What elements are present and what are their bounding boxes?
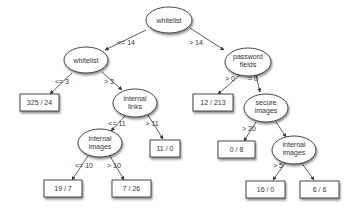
edge-label-whitelist-left-right: > 3 [104, 78, 114, 85]
node-label-line-1: secure [255, 99, 276, 106]
leaf-0-8: 0 / 8 [218, 141, 255, 158]
node-label-line-1: internal [124, 95, 147, 102]
leaf-label: 12 / 213 [200, 99, 225, 106]
node-label-line-1: internal [283, 141, 306, 148]
leaf-label: 7 / 26 [123, 185, 141, 192]
node-secure-images: secure images [244, 94, 288, 122]
edge-password-fields-left: > 0 [218, 75, 240, 94]
leaf-7-26: 7 / 26 [112, 180, 151, 197]
edge-whitelist-left-right: > 3 [102, 72, 122, 90]
edge-secure-images-right [276, 122, 286, 137]
edge-internal-images-right-right [301, 162, 314, 180]
node-label: whitelist [156, 17, 182, 24]
edge-label-internal-links-right: > 11 [145, 120, 158, 127]
edge-label-secure-images-left: > 20 [242, 125, 256, 132]
leaf-label: 0 / 8 [230, 146, 244, 153]
edge-internal-links-right: > 11 [145, 115, 163, 139]
leaf-label: 325 / 24 [27, 99, 52, 106]
node-label-line-2: fields [240, 61, 257, 68]
edge-whitelist-left-left: <= 3 [50, 73, 72, 94]
leaf-label: 19 / 7 [54, 185, 72, 192]
node-whitelist-left: whitelist [64, 47, 108, 73]
edge-label-internal-links-left: <= 11 [108, 120, 125, 127]
edge-label-root-right: > 14 [189, 39, 203, 46]
node-password-fields: password fields [225, 48, 271, 76]
edge-label-root-left: <= 14 [117, 39, 135, 46]
node-label: whitelist [73, 57, 99, 64]
leaf-11-0: 11 / 0 [150, 140, 180, 157]
leaf-12-213: 12 / 213 [193, 94, 233, 111]
node-label-line-1: password [233, 53, 263, 61]
edge-label-internal-images-left-right: > 10 [107, 162, 121, 169]
edge-label-internal-images-left-left: <= 10 [75, 162, 93, 169]
edge-root-right: > 14 [189, 28, 224, 50]
leaf-6-6: 6 / 6 [300, 181, 339, 198]
edge-internal-images-right-left: > 5 [273, 162, 286, 180]
edge-internal-links-left: <= 11 [108, 116, 125, 131]
decision-tree-diagram: <= 14 > 14 <= 3 > 3 <= 11 > 11 <= 10 > 1… [0, 0, 359, 216]
edge-label-internal-images-right-left: > 5 [273, 162, 283, 169]
node-root-whitelist: whitelist [146, 7, 192, 33]
node-label-line-2: images [283, 149, 306, 157]
node-internal-links: internal links [113, 89, 157, 117]
node-label-line-2: links [128, 103, 143, 110]
node-label-line-1: internal [89, 135, 112, 142]
leaf-label: 6 / 6 [313, 186, 327, 193]
node-label-line-2: images [255, 107, 278, 115]
leaf-19-7: 19 / 7 [44, 180, 82, 197]
edge-label-password-fields-left: > 0 [225, 75, 235, 82]
edge-secure-images-left: > 20 [242, 122, 256, 141]
leaf-16-0: 16 / 0 [246, 181, 285, 198]
edge-root-left: <= 14 [105, 30, 146, 50]
edge-label-whitelist-left-left: <= 3 [55, 78, 69, 85]
edge-internal-images-left-right: > 10 [107, 156, 124, 180]
node-internal-images-left: internal images [78, 129, 122, 157]
edge-password-fields-right: = 0 [248, 75, 260, 92]
leaf-label: 11 / 0 [157, 145, 174, 152]
node-internal-images-right: internal images [272, 136, 316, 164]
leaf-325-24: 325 / 24 [20, 94, 59, 111]
leaf-label: 16 / 0 [257, 186, 275, 193]
node-label-line-2: images [89, 143, 112, 151]
edge-internal-images-left-left: <= 10 [72, 156, 93, 180]
